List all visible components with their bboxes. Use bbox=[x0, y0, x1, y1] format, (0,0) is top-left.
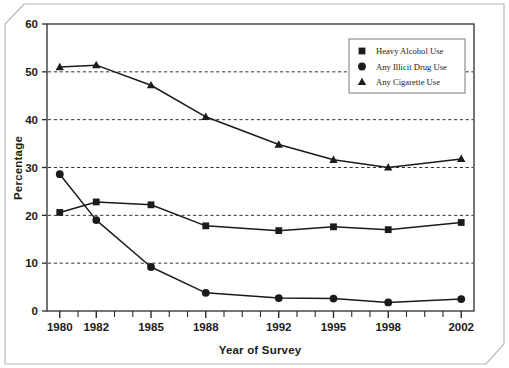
y-axis-tick-label: 40 bbox=[25, 114, 38, 126]
data-point-marker-circle bbox=[457, 295, 465, 303]
y-axis-tick-label: 10 bbox=[25, 257, 38, 269]
x-axis-tick-label: 1982 bbox=[83, 321, 109, 333]
x-axis-tick-label: 1988 bbox=[193, 321, 219, 333]
x-axis-tick-label: 1992 bbox=[266, 321, 292, 333]
data-point-marker-square bbox=[275, 227, 282, 234]
data-point-marker-circle bbox=[330, 295, 338, 303]
data-point-marker-square bbox=[93, 199, 100, 206]
legend-label: Heavy Alcohol Use bbox=[376, 46, 443, 56]
data-point-marker-circle bbox=[147, 263, 155, 271]
chart-figure: 0102030405060 19801982198519881992199519… bbox=[0, 0, 509, 368]
x-axis: 19801982198519881992199519982002 bbox=[47, 311, 474, 333]
data-point-marker-square bbox=[202, 222, 209, 229]
data-point-marker-square-legend bbox=[359, 48, 366, 55]
plot-area: 0102030405060 19801982198519881992199519… bbox=[0, 0, 509, 368]
data-point-marker-square bbox=[330, 223, 337, 230]
y-axis-tick-label: 60 bbox=[25, 18, 38, 30]
x-axis-tick-label: 1980 bbox=[47, 321, 73, 333]
legend-label: Any Illicit Drug Use bbox=[376, 62, 447, 72]
data-point-marker-square bbox=[56, 209, 63, 216]
y-axis: 0102030405060 bbox=[25, 18, 47, 317]
y-axis-tick-label: 20 bbox=[25, 210, 38, 222]
x-axis-tick-label: 1995 bbox=[321, 321, 347, 333]
data-point-marker-circle bbox=[202, 289, 210, 297]
data-point-marker-circle bbox=[56, 170, 64, 178]
y-axis-tick-label: 50 bbox=[25, 66, 38, 78]
data-point-marker-square bbox=[385, 226, 392, 233]
data-point-marker-circle bbox=[275, 294, 283, 302]
x-axis-tick-label: 2002 bbox=[448, 321, 474, 333]
x-axis-tick-label: 1998 bbox=[375, 321, 401, 333]
data-point-marker-circle bbox=[384, 298, 392, 306]
y-axis-tick-label: 0 bbox=[32, 305, 38, 317]
x-axis-tick-label: 1985 bbox=[138, 321, 164, 333]
x-axis-title: Year of Survey bbox=[219, 344, 302, 356]
data-point-marker-square bbox=[148, 201, 155, 208]
data-point-marker-square bbox=[458, 219, 465, 226]
y-axis-tick-label: 30 bbox=[25, 162, 38, 174]
y-axis-title: Percentage bbox=[12, 136, 24, 200]
legend-label: Any Cigarette Use bbox=[376, 77, 440, 87]
data-point-marker-circle bbox=[92, 216, 100, 224]
legend: Heavy Alcohol UseAny Illicit Drug UseAny… bbox=[349, 39, 465, 93]
data-point-marker-circle-legend bbox=[358, 63, 366, 71]
